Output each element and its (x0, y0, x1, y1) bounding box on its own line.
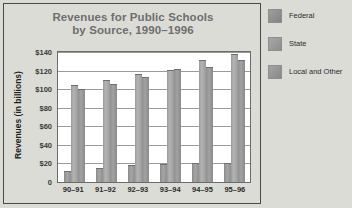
legend-item: Federal (268, 8, 350, 23)
bar-federal-94-95 (192, 163, 199, 182)
y-axis-tick-label: $100 (35, 85, 52, 94)
x-axis-tick-label: 93–94 (154, 185, 186, 199)
bar-state-90-91 (71, 85, 78, 183)
legend-item: State (268, 36, 350, 51)
bar-group (186, 52, 218, 182)
bar-group (122, 52, 154, 182)
bar-group (154, 52, 186, 182)
legend-item-label: Local and Other (289, 67, 342, 76)
chart-figure: Revenues for Public Schools by Source, 1… (0, 0, 352, 208)
bar-state-94-95 (199, 60, 206, 182)
bar-local-and-other-92-93 (142, 77, 149, 182)
legend-item-label: State (289, 39, 307, 48)
y-axis-tick-label: $20 (39, 159, 52, 168)
chart-legend: FederalStateLocal and Other (268, 8, 350, 92)
x-axis-tick-labels: 90–9191–9292–9393–9494–9595–96 (57, 185, 251, 199)
chart-panel: Revenues for Public Schools by Source, 1… (3, 3, 261, 204)
bar-local-and-other-90-91 (78, 89, 85, 182)
y-axis-tick-label: 0 (48, 178, 52, 187)
bar-state-92-93 (135, 74, 142, 182)
bar-group (218, 52, 250, 182)
y-axis-tick-labels: $140$120$100$80$60$40$200 (4, 51, 56, 183)
bar-federal-90-91 (64, 171, 71, 182)
y-axis-tick-label: $120 (35, 66, 52, 75)
legend-swatch-state (268, 37, 282, 51)
x-axis-tick-label: 95–96 (219, 185, 251, 199)
plot-area (57, 51, 251, 183)
x-axis-tick-label: 90–91 (57, 185, 89, 199)
chart-title: Revenues for Public Schools by Source, 1… (14, 11, 252, 37)
bar-local-and-other-93-94 (174, 69, 181, 182)
bar-federal-93-94 (160, 164, 167, 182)
bar-group (58, 52, 90, 182)
bar-local-and-other-94-95 (206, 67, 213, 182)
y-axis-tick-label: $140 (35, 48, 52, 57)
legend-swatch-local-and-other (268, 65, 282, 79)
legend-item-label: Federal (289, 11, 314, 20)
y-axis-tick-label: $40 (39, 140, 52, 149)
bar-federal-91-92 (96, 168, 103, 182)
bar-federal-95-96 (224, 163, 231, 183)
chart-title-line-1: Revenues for Public Schools (52, 11, 213, 23)
bar-local-and-other-95-96 (238, 60, 245, 182)
y-axis-tick-label: $80 (39, 103, 52, 112)
chart-title-line-2: by Source, 1990–1996 (14, 24, 252, 37)
bar-state-95-96 (231, 54, 238, 182)
x-axis-tick-label: 94–95 (186, 185, 218, 199)
bar-groups (58, 52, 250, 182)
bar-state-91-92 (103, 80, 110, 182)
x-axis-tick-label: 92–93 (122, 185, 154, 199)
bar-federal-92-93 (128, 165, 135, 182)
bar-group (90, 52, 122, 182)
x-axis-tick-label: 91–92 (89, 185, 121, 199)
legend-swatch-federal (268, 9, 282, 23)
y-axis-tick-label: $60 (39, 122, 52, 131)
bar-local-and-other-91-92 (110, 84, 117, 182)
legend-item: Local and Other (268, 64, 350, 79)
bar-state-93-94 (167, 70, 174, 182)
